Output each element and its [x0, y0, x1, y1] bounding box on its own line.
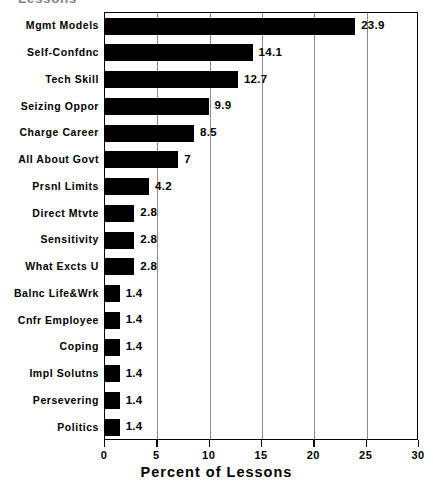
bar-row: 9.9 — [105, 93, 417, 120]
bar-row: 14.1 — [105, 40, 417, 67]
category-label: What Excts U — [3, 260, 99, 272]
bar-row: 2.8 — [105, 254, 417, 281]
bar-value-label: 1.4 — [126, 365, 143, 382]
bar-row: 1.4 — [105, 281, 417, 308]
bar-value-label: 2.8 — [140, 231, 157, 248]
bar — [105, 18, 355, 35]
bar — [105, 44, 253, 61]
category-label: Mgmt Models — [3, 19, 99, 31]
bar — [105, 392, 120, 409]
bar — [105, 125, 194, 142]
category-label: Balnc Life&Wrk — [3, 287, 99, 299]
bar — [105, 151, 178, 168]
category-label: Sensitivity — [3, 233, 99, 245]
bar-value-label: 7 — [184, 151, 191, 168]
x-tick-mark — [261, 440, 262, 447]
x-tick-mark — [156, 440, 157, 447]
x-tick-mark — [366, 440, 367, 447]
bar-chart: Lessons 23.914.112.79.98.574.22.82.82.81… — [0, 0, 433, 488]
category-label: Charge Career — [3, 126, 99, 138]
bar — [105, 71, 238, 88]
bar-value-label: 2.8 — [140, 258, 157, 275]
category-label: Cnfr Employee — [3, 314, 99, 326]
category-label: Impl Solutns — [3, 367, 99, 379]
bar-row: 2.8 — [105, 227, 417, 254]
bar-value-label: 1.4 — [126, 338, 143, 355]
bar-value-label: 1.4 — [126, 418, 143, 435]
x-tick-mark — [104, 440, 105, 447]
bar-value-label: 1.4 — [126, 285, 143, 302]
x-tick-label: 30 — [398, 449, 433, 461]
category-label: Coping — [3, 340, 99, 352]
bar — [105, 419, 120, 436]
x-tick-mark — [418, 440, 419, 447]
bar — [105, 258, 134, 275]
bar-row: 23.9 — [105, 13, 417, 40]
plot-area: 23.914.112.79.98.574.22.82.82.81.41.41.4… — [104, 12, 418, 440]
bar — [105, 232, 134, 249]
bar-value-label: 2.8 — [140, 204, 157, 221]
bar-row: 2.8 — [105, 200, 417, 227]
chart-title: Lessons — [18, 0, 77, 3]
bar-value-label: 23.9 — [361, 17, 385, 34]
bar-value-label: 9.9 — [215, 97, 232, 114]
bar — [105, 205, 134, 222]
x-axis-title: Percent of Lessons — [0, 464, 433, 480]
category-label: Direct Mtvte — [3, 207, 99, 219]
bar-row: 1.4 — [105, 307, 417, 334]
x-tick-label: 5 — [136, 449, 176, 461]
bar-value-label: 1.4 — [126, 392, 143, 409]
bar-row: 1.4 — [105, 388, 417, 415]
bar-row: 1.4 — [105, 414, 417, 441]
category-label: All About Govt — [3, 153, 99, 165]
bar — [105, 178, 149, 195]
x-tick-label: 10 — [189, 449, 229, 461]
bar-value-label: 8.5 — [200, 124, 217, 141]
x-tick-label: 20 — [293, 449, 333, 461]
x-tick-label: 25 — [346, 449, 386, 461]
x-tick-mark — [313, 440, 314, 447]
bar-value-label: 12.7 — [244, 71, 268, 88]
bar — [105, 98, 209, 115]
bar — [105, 312, 120, 329]
category-label: Self-Confdnc — [3, 46, 99, 58]
bar-value-label: 4.2 — [155, 178, 172, 195]
x-tick-label: 15 — [241, 449, 281, 461]
bar-row: 8.5 — [105, 120, 417, 147]
bar-value-label: 14.1 — [259, 44, 283, 61]
category-label: Prsnl Limits — [3, 180, 99, 192]
category-label: Persevering — [3, 394, 99, 406]
bar — [105, 339, 120, 356]
bar-value-label: 1.4 — [126, 311, 143, 328]
category-label: Tech Skill — [3, 73, 99, 85]
category-label: Seizing Oppor — [3, 100, 99, 112]
bar-row: 7 — [105, 147, 417, 174]
bar-row: 4.2 — [105, 174, 417, 201]
bar-row: 1.4 — [105, 334, 417, 361]
bar-row: 1.4 — [105, 361, 417, 388]
bar — [105, 365, 120, 382]
bar-row: 12.7 — [105, 67, 417, 94]
x-tick-label: 0 — [84, 449, 124, 461]
bar — [105, 285, 120, 302]
x-tick-mark — [209, 440, 210, 447]
category-label: Politics — [3, 421, 99, 433]
